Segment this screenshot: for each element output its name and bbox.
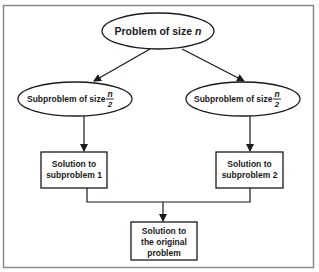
solution-2-box: Solution to subproblem 2 bbox=[216, 152, 283, 188]
solution-1-line1: Solution to bbox=[52, 159, 96, 169]
left-frac-num: n bbox=[107, 89, 112, 99]
right-subproblem-node: Subproblem of size n 2 bbox=[186, 82, 300, 116]
solution-1-line2: subproblem 1 bbox=[46, 170, 102, 180]
root-problem-node: Problem of size n bbox=[102, 13, 214, 49]
right-frac-den: 2 bbox=[274, 100, 280, 109]
final-line3: problem bbox=[147, 248, 181, 258]
left-subproblem-label: Subproblem of size bbox=[27, 94, 106, 104]
svg-text:Problem of size n: Problem of size n bbox=[115, 25, 202, 37]
divide-and-conquer-diagram: Problem of size n Subproblem of size n 2… bbox=[0, 0, 319, 272]
final-line2: the original bbox=[141, 237, 187, 247]
solution-2-line2: subproblem 2 bbox=[222, 170, 278, 180]
right-subproblem-label: Subproblem of size bbox=[194, 94, 273, 104]
root-label: Problem of size bbox=[115, 25, 196, 37]
final-line1: Solution to bbox=[142, 226, 186, 236]
left-subproblem-node: Subproblem of size n 2 bbox=[18, 82, 132, 116]
root-var: n bbox=[195, 25, 201, 37]
solution-2-line1: Solution to bbox=[227, 159, 271, 169]
final-solution-box: Solution to the original problem bbox=[131, 222, 197, 260]
left-frac-den: 2 bbox=[107, 100, 113, 109]
solution-1-box: Solution to subproblem 1 bbox=[41, 152, 107, 188]
right-frac-num: n bbox=[274, 89, 279, 99]
